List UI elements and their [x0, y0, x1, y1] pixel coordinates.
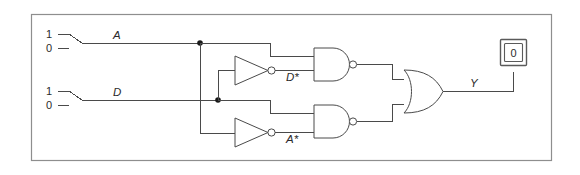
- wire-d-to-inverter-top: [218, 70, 235, 100]
- circuit-canvas: 1 0 A 1 0 D D* A* Y 0: [0, 0, 580, 175]
- input-a-label: A: [112, 29, 121, 41]
- nand-gate-bottom: [314, 105, 357, 138]
- inverter-top-triangle: [235, 56, 268, 85]
- inverter-bottom-bubble: [268, 129, 275, 136]
- inverter-bottom-triangle: [235, 118, 268, 147]
- wire-d-to-nand-bottom: [218, 100, 314, 113]
- or-gate-body: [404, 70, 443, 113]
- or-gate: [404, 70, 443, 113]
- signal-label-a-not: A*: [285, 133, 299, 145]
- output-label-y: Y: [470, 77, 479, 89]
- input-switch-a[interactable]: [58, 34, 82, 48]
- signal-label-d-not: D*: [286, 71, 299, 83]
- nand-top-body: [314, 48, 350, 81]
- wire-a-to-nand-top: [200, 43, 314, 56]
- wire-nandbottom-to-or: [357, 104, 404, 122]
- nand-bottom-body: [314, 105, 350, 138]
- wire-nandtop-to-or: [357, 65, 404, 80]
- wire-y-output: [443, 72, 513, 92]
- inverter-bottom: [235, 118, 275, 147]
- nand-top-bubble: [349, 61, 356, 68]
- inverter-top: [235, 56, 275, 85]
- inverter-top-bubble: [268, 67, 275, 74]
- input-d-high-label: 1: [46, 85, 52, 97]
- circuit-diagram-screenshot: 1 0 A 1 0 D D* A* Y 0: [0, 0, 580, 175]
- input-d-label: D: [113, 86, 121, 98]
- output-indicator-value: 0: [510, 47, 516, 59]
- input-a-low-label: 0: [46, 42, 52, 54]
- switch-a-blade[interactable]: [69, 34, 82, 43]
- switch-d-blade[interactable]: [69, 91, 82, 100]
- nand-gate-top: [314, 48, 357, 81]
- input-switch-d[interactable]: [58, 91, 82, 105]
- nand-bottom-bubble: [349, 118, 356, 125]
- input-a-high-label: 1: [46, 28, 52, 40]
- input-d-low-label: 0: [46, 99, 52, 111]
